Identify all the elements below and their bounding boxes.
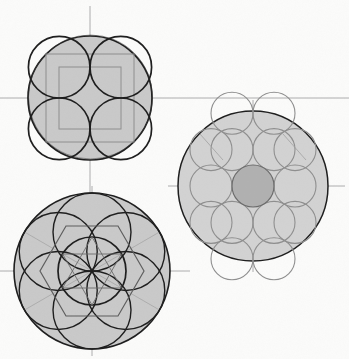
geometric-construction-canvas <box>0 0 349 359</box>
paper-grain-overlay <box>0 0 349 359</box>
drawing-sheet <box>0 0 349 359</box>
